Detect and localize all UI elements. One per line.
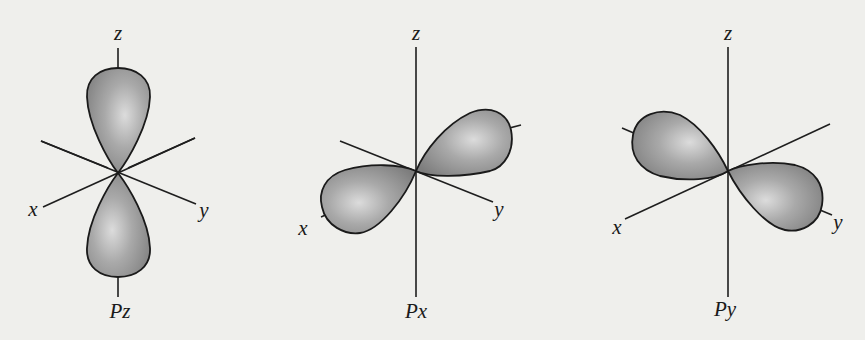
lobe-positive-y bbox=[728, 163, 823, 231]
orbital-label: Px bbox=[404, 299, 428, 323]
lobe-negative-y bbox=[632, 112, 728, 180]
y-axis-front-tip bbox=[820, 210, 832, 215]
axis-label-y: y bbox=[197, 198, 209, 222]
axis-label-x: x bbox=[27, 197, 38, 221]
axis-front-left bbox=[41, 141, 108, 168]
axis-label-z: z bbox=[723, 21, 732, 45]
orbital-diagram: z x y Pz z x y Px z x y Py bbox=[0, 0, 865, 340]
axis-label-z: z bbox=[113, 21, 122, 45]
axis-label-x: x bbox=[611, 215, 622, 239]
axis-label-y: y bbox=[492, 197, 504, 221]
lobe-upper bbox=[87, 68, 150, 173]
orbital-label: Pz bbox=[109, 299, 131, 323]
axis-label-z: z bbox=[411, 21, 420, 45]
lobe-negative-x bbox=[321, 165, 416, 233]
axis-label-x: x bbox=[297, 216, 308, 240]
lobe-positive-x bbox=[416, 110, 512, 176]
orbital-py: z x y Py bbox=[611, 21, 843, 321]
orbital-label: Py bbox=[713, 297, 737, 321]
orbital-px: z x y Px bbox=[297, 21, 521, 323]
orbital-pz: z x y Pz bbox=[27, 21, 209, 323]
lobe-lower bbox=[87, 173, 150, 277]
axis-label-y: y bbox=[831, 210, 843, 234]
axis-front-right bbox=[128, 138, 195, 168]
